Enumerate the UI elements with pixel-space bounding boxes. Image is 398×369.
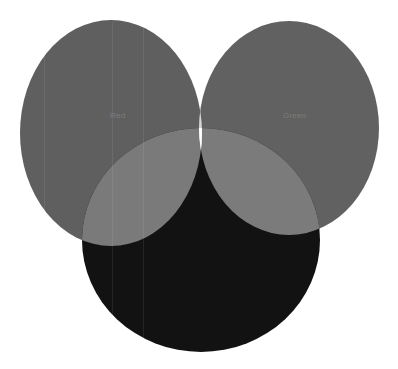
label-green: Green	[283, 111, 306, 120]
scan-streak	[112, 22, 113, 342]
scan-streak	[143, 22, 144, 342]
scan-streak	[44, 30, 45, 240]
label-red: Red	[110, 111, 125, 120]
venn-svg	[0, 0, 398, 369]
rgb-venn-diagram: Red Green	[0, 0, 398, 369]
